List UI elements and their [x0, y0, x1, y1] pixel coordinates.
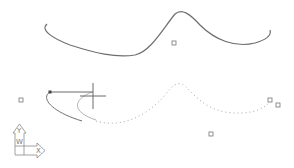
ucs-w-label: W — [16, 138, 23, 146]
grip-square-icon[interactable] — [172, 41, 176, 45]
ucs-x-label: X — [36, 147, 41, 155]
grip-square-icon[interactable] — [276, 103, 280, 107]
grip-square-icon[interactable] — [209, 132, 213, 136]
first-point-marker — [49, 91, 52, 94]
grip-square-icon[interactable] — [268, 98, 272, 102]
grip-square-icon[interactable] — [19, 98, 23, 102]
ucs-y-label: Y — [16, 127, 22, 135]
canvas-background — [0, 0, 294, 168]
drawing-canvas[interactable]: Y W X — [0, 0, 294, 168]
